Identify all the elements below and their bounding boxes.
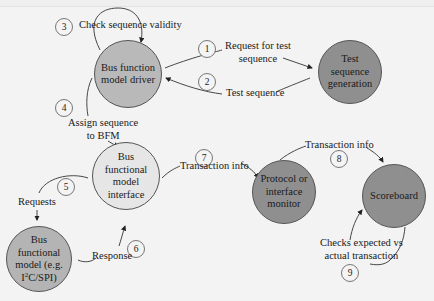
label-text: Check sequence validity (79, 19, 182, 32)
node-scoreboard: Scoreboard (362, 164, 426, 228)
label-text: Checks expected vs (320, 237, 403, 250)
node-protocol-interface-monitor: Protocol or interface monitor (252, 160, 316, 224)
label-text: Requests (18, 196, 56, 209)
step-badge-5: 5 (57, 178, 75, 196)
node-text: interface (261, 186, 308, 199)
step-label-8: Transaction info (305, 139, 374, 152)
label-text: Transaction info (305, 139, 374, 152)
label-text: Response (92, 250, 132, 263)
label-text: sequence (225, 53, 291, 66)
arrow-transaction-info-7 (162, 166, 180, 178)
arrow-assign-bfm (87, 78, 92, 116)
arrow-transaction-info-8 (280, 146, 306, 160)
step-label-3: Check sequence validity (79, 19, 182, 32)
step-label-2: Test sequence (226, 87, 284, 100)
node-test-sequence-generation: Test sequence generation (318, 40, 382, 104)
node-text: model driver (101, 74, 155, 87)
node-text: Bus (105, 151, 148, 164)
node-text: Test sequence (323, 53, 377, 78)
node-bus-functional-model: Bus functional model (e.g. I2C/SPI) (6, 226, 72, 292)
node-text: Protocol or (261, 173, 308, 186)
step-badge-1: 1 (198, 40, 216, 58)
node-text: model (105, 176, 148, 189)
node-text: Bus function (101, 62, 155, 75)
node-text: model (e.g. (15, 259, 63, 272)
step-label-5: Requests (18, 196, 56, 209)
label-text: Request for test (225, 40, 291, 53)
node-text: functional (105, 164, 148, 177)
node-text: functional (15, 247, 63, 260)
step-label-7: Transaction info (180, 160, 249, 173)
step-badge-4: 4 (55, 99, 73, 117)
step-badge-8: 8 (330, 150, 348, 168)
step-label-4: Assign sequence to BFM (68, 117, 138, 142)
node-text: Scoreboard (370, 190, 418, 203)
step-badge-2: 2 (198, 73, 216, 91)
label-text: Test sequence (226, 87, 284, 100)
node-text: Bus (15, 234, 63, 247)
node-bus-function-model-driver: Bus function model driver (94, 40, 162, 108)
node-text: I2C/SPI) (15, 272, 63, 285)
node-bus-functional-model-interface: Bus functional model interface (92, 142, 160, 210)
step-badge-9: 9 (341, 264, 359, 282)
step-label-9: Checks expected vs actual transaction (320, 237, 403, 262)
node-text: C/SPI) (28, 272, 57, 283)
step-badge-3: 3 (55, 18, 73, 36)
node-text: monitor (261, 198, 308, 211)
node-text: interface (105, 189, 148, 202)
label-text: Transaction info (180, 160, 249, 173)
node-text: generation (323, 78, 377, 91)
label-text: Assign sequence (68, 117, 138, 130)
label-text: actual transaction (320, 250, 403, 263)
step-label-6: Response (92, 250, 132, 263)
step-label-1: Request for test sequence (225, 40, 291, 65)
label-text: to BFM (68, 130, 138, 143)
